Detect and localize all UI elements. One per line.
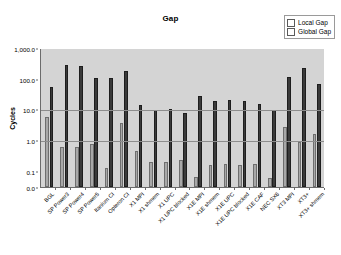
bar-local-gap (90, 144, 94, 187)
x-tick-mark (55, 188, 56, 190)
bar-global-gap (169, 109, 173, 187)
x-tick-mark (85, 188, 86, 190)
bar-local-gap (164, 162, 168, 187)
bar-global-gap (272, 110, 276, 187)
x-tick-mark (219, 188, 220, 190)
bar-group (161, 49, 176, 187)
bar-group (101, 49, 116, 187)
bar-global-gap (258, 104, 262, 187)
bar-global-gap (65, 65, 69, 187)
legend-label-local-gap: Local Gap (298, 19, 328, 27)
y-tick-label: 1.0 (26, 138, 35, 145)
gridline (41, 110, 324, 111)
bar-local-gap (224, 164, 228, 187)
bar-global-gap (79, 66, 83, 187)
bar-group (220, 49, 235, 187)
x-tick-mark (175, 188, 176, 190)
plot-area (40, 49, 324, 188)
bar-local-gap (105, 168, 109, 187)
x-tick-mark (324, 188, 325, 190)
x-tick-mark (309, 188, 310, 190)
y-tick-mark (36, 79, 38, 80)
x-tick-mark (234, 188, 235, 190)
chart-container: Gap Local Gap Global Gap Cycles 1,000.01… (0, 0, 341, 255)
bar-group (57, 49, 72, 187)
bar-global-gap (213, 101, 217, 187)
bar-local-gap (209, 165, 213, 187)
bar-local-gap (253, 164, 257, 187)
x-tick-mark (70, 188, 71, 190)
y-tick-label: 0.0 (26, 185, 35, 192)
x-tick-mark (100, 188, 101, 190)
bar-global-gap (302, 68, 306, 187)
bar-local-gap (75, 147, 79, 187)
y-tick-mark (36, 171, 38, 172)
bar-local-gap (135, 151, 139, 187)
legend-swatch-global-gap (287, 28, 295, 36)
legend-item-global-gap: Global Gap (287, 27, 331, 36)
bar-group (116, 49, 131, 187)
bar-global-gap (139, 105, 143, 187)
bar-global-gap (287, 77, 291, 187)
legend-swatch-local-gap (287, 19, 295, 27)
y-tick-mark (36, 110, 38, 111)
y-tick-mark (36, 49, 38, 50)
bar-local-gap (179, 160, 183, 187)
x-tick-mark (294, 188, 295, 190)
bar-group (176, 49, 191, 187)
bar-local-gap (45, 117, 49, 187)
x-tick-mark (249, 188, 250, 190)
legend-label-global-gap: Global Gap (298, 28, 331, 36)
x-tick-mark (204, 188, 205, 190)
bar-local-gap (194, 177, 198, 187)
y-tick-label: 100.0 (20, 76, 35, 83)
y-tick-mark (36, 188, 38, 189)
bar-local-gap (283, 127, 287, 187)
x-tick-mark (160, 188, 161, 190)
bar-group (280, 49, 295, 187)
bar-group (72, 49, 87, 187)
bar-global-gap (124, 71, 128, 187)
bars-layer (42, 49, 324, 187)
bar-local-gap (238, 165, 242, 187)
y-tick-label: 10.0 (23, 107, 35, 114)
bar-group (87, 49, 102, 187)
bar-global-gap (50, 87, 54, 187)
bar-global-gap (154, 110, 158, 187)
y-axis-ticks: 1,000.0100.010.01.00.10.0 (0, 49, 38, 188)
y-tick-label: 1,000.0 (14, 46, 35, 53)
bar-group (146, 49, 161, 187)
bar-group (265, 49, 280, 187)
bar-local-gap (268, 178, 272, 187)
bar-group (131, 49, 146, 187)
bar-local-gap (120, 123, 124, 187)
legend-item-local-gap: Local Gap (287, 18, 331, 27)
bar-global-gap (243, 101, 247, 187)
x-tick-mark (130, 188, 131, 190)
bar-group (190, 49, 205, 187)
x-tick-mark (279, 188, 280, 190)
bar-group (250, 49, 265, 187)
gridline (41, 141, 324, 142)
bar-group (205, 49, 220, 187)
bar-group (309, 49, 324, 187)
bar-local-gap (298, 142, 302, 187)
x-tick-mark (145, 188, 146, 190)
chart-legend: Local Gap Global Gap (284, 15, 335, 39)
y-tick-label: 0.1 (26, 168, 35, 175)
x-tick-mark (115, 188, 116, 190)
x-tick-mark (189, 188, 190, 190)
bar-global-gap (94, 78, 98, 187)
bar-global-gap (228, 100, 232, 187)
bar-local-gap (60, 147, 64, 187)
bar-group (235, 49, 250, 187)
x-tick-mark (264, 188, 265, 190)
bar-global-gap (109, 78, 113, 187)
bar-group (294, 49, 309, 187)
y-tick-mark (36, 141, 38, 142)
bar-group (42, 49, 57, 187)
x-axis-labels: BGLSP Power3SP Power4SP Power5Itanium CI… (40, 188, 324, 255)
bar-local-gap (149, 162, 153, 187)
bar-global-gap (317, 84, 321, 188)
bar-global-gap (183, 113, 187, 187)
